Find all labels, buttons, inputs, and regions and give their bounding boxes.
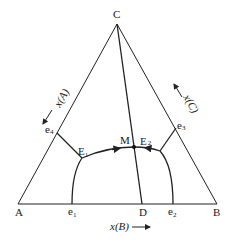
label-e2: e2 [168, 205, 177, 219]
point-M [132, 145, 136, 149]
axis-label-xA: x(A) [51, 86, 72, 110]
triangle-outline [18, 24, 217, 204]
label-e3: e3 [177, 119, 186, 132]
line-C-D [117, 24, 142, 204]
boundary-e3-E2 [160, 128, 176, 151]
axis-label-xB: x(B) [109, 220, 129, 233]
arrow-E2-M [145, 148, 152, 149]
label-D: D [139, 206, 147, 218]
label-A: A [15, 206, 23, 218]
label-e4: e4 [45, 123, 54, 136]
label-E2: E2 [140, 135, 152, 147]
label-e1: e1 [68, 205, 77, 219]
label-E1: E1 [78, 145, 89, 159]
ternary-diagram: C A B D M E1 E2 e1 e2 e3 e4 x(B) x(A) x(… [0, 0, 232, 246]
label-C: C [113, 8, 120, 20]
axis-arrow-xA [43, 110, 52, 124]
axis-arrow-xC [174, 84, 182, 97]
label-B: B [213, 206, 220, 218]
boundary-e2-E2 [160, 151, 173, 204]
axis-label-xC: x(C) [180, 91, 202, 116]
label-M: M [120, 134, 130, 146]
boundary-e1-E1 [72, 158, 82, 204]
